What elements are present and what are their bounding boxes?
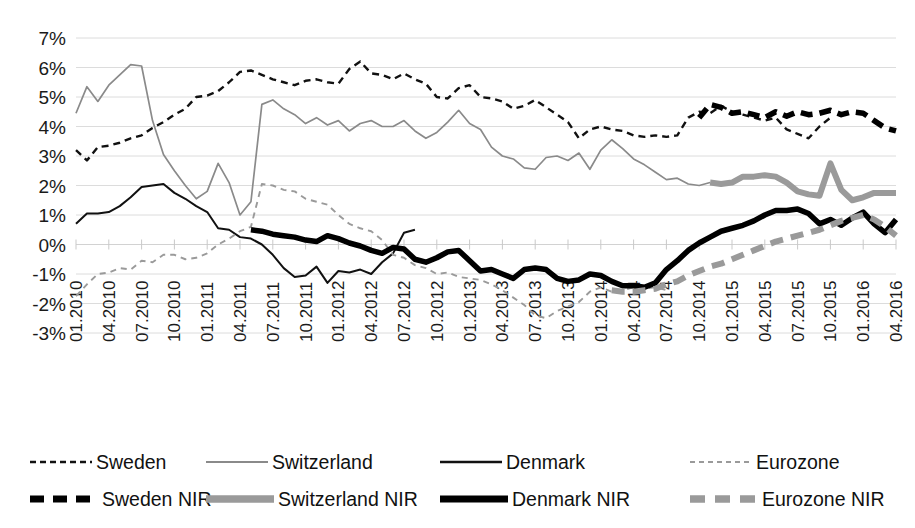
x-axis-label: 07.2011 [264,282,283,342]
y-axis-label: 3% [39,146,67,167]
y-axis-label: 6% [39,58,67,79]
x-axis-label: 07.2012 [395,281,414,342]
series-line-denmark-nir [251,209,896,287]
legend-group: SwedenSwitzerlandDenmarkEurozoneSweden N… [30,451,884,510]
y-axis-label: -3% [32,323,66,344]
legend-item-denmark[interactable]: Denmark [440,451,585,473]
y-axis-label: 4% [39,117,67,138]
x-axis-label: 10.2015 [821,281,840,342]
legend-label-eurozone-nir: Eurozone NIR [762,488,884,510]
x-axis-label: 07.2015 [789,281,808,342]
legend-label-switzerland: Switzerland [272,451,373,473]
x-axis-label: 01.2011 [198,282,217,342]
x-axis-label: 10.2011 [297,282,316,342]
legend-label-switzerland-nir: Switzerland NIR [278,488,418,510]
y-axis-labels-group: 7%6%5%4%3%2%1%0%-1%-2%-3% [32,28,66,344]
series-group [76,62,896,319]
x-axis-label: 01.2013 [461,281,480,342]
legend-item-switzerland-nir[interactable]: Switzerland NIR [206,488,418,510]
legend-label-denmark: Denmark [506,451,585,473]
legend-item-eurozone[interactable]: Eurozone [690,451,839,473]
cropped-title-remnant [0,0,915,14]
legend-label-eurozone: Eurozone [756,451,839,473]
x-axis-label: 10.2010 [165,281,184,342]
line-chart-canvas: 7%6%5%4%3%2%1%0%-1%-2%-3% 01.201004.2010… [0,0,915,528]
legend-label-sweden: Sweden [96,451,166,473]
x-axis-label: 04.2015 [756,281,775,342]
y-axis-label: -1% [32,264,66,285]
x-axis-label: 01.2010 [67,281,86,342]
y-axis-label: 7% [39,28,67,49]
legend-item-sweden-nir[interactable]: Sweden NIR [30,488,211,510]
x-axis-label: 04.2010 [100,281,119,342]
x-axis-label: 10.2014 [690,281,709,342]
y-axis-label: 1% [39,205,67,226]
y-axis-label: 5% [39,87,67,108]
x-axis-label: 10.2013 [559,281,578,342]
x-axis-label: 01.2015 [723,281,742,342]
x-axis-label: 04.2011 [231,282,250,342]
series-line-denmark [76,184,415,283]
legend-item-denmark-nir[interactable]: Denmark NIR [440,488,630,510]
y-axis-label: -2% [32,294,66,315]
x-axis-label: 07.2010 [133,281,152,342]
legend-item-sweden[interactable]: Sweden [30,451,166,473]
x-axis-label: 07.2013 [526,281,545,342]
legend-item-switzerland[interactable]: Switzerland [206,451,373,473]
x-axis-label: 01.2012 [329,281,348,342]
y-axis-label: 2% [39,176,67,197]
series-line-switzerland [76,65,710,215]
series-line-switzerland-nir [710,163,896,200]
y-axis-label: 0% [39,235,67,256]
x-axis-label: 04.2013 [493,281,512,342]
legend-label-sweden-nir: Sweden NIR [102,488,211,510]
x-axis-label: 04.2012 [362,281,381,342]
x-axis-label: 10.2012 [428,281,447,342]
chart-figure: 7%6%5%4%3%2%1%0%-1%-2%-3% 01.201004.2010… [0,0,915,528]
x-axis-label: 01.2016 [854,281,873,342]
legend-item-eurozone-nir[interactable]: Eurozone NIR [690,488,884,510]
legend-label-denmark-nir: Denmark NIR [512,488,630,510]
series-line-sweden [76,62,830,161]
x-axis-label: 04.2016 [887,281,906,342]
